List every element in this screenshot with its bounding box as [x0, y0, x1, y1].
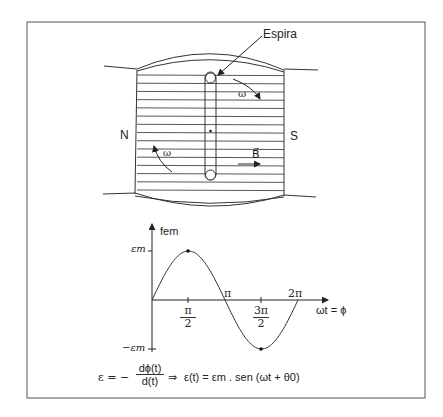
- formula-fraction: dϕ(t) d(t): [136, 362, 164, 387]
- y-min-label: −εm: [122, 342, 145, 353]
- south-pole-label: S: [290, 129, 298, 143]
- tick-2pi: 2π: [288, 287, 302, 300]
- loop-label: Espira: [263, 27, 297, 41]
- tick-3pi-over-2: 3π 2: [253, 305, 269, 330]
- y-max-label: εm: [131, 243, 146, 254]
- omega-label-top: ω: [238, 88, 246, 99]
- field-label: B⃗: [252, 148, 260, 161]
- loop-espira: [205, 72, 216, 180]
- y-axis-label: fem: [160, 225, 178, 237]
- north-pole-label: N: [120, 128, 129, 142]
- formula-rhs: ε(t) = εm . sen (ωt + θ0): [184, 371, 300, 383]
- formula-implies: ⇒: [168, 371, 177, 384]
- tick-pi-over-2: π 2: [180, 305, 196, 330]
- generator-diagram: [0, 0, 443, 417]
- omega-label-bottom: ω: [163, 147, 171, 158]
- tick-pi: π: [224, 287, 231, 300]
- rotation-axis-dot: [209, 130, 212, 133]
- figure-frame: [27, 22, 425, 398]
- max-point: [186, 249, 190, 253]
- formula-lhs: ε = −: [98, 371, 129, 384]
- espira-pointer-arrow: [218, 36, 262, 75]
- min-point: [259, 347, 263, 351]
- x-axis-label: ωt = ϕ: [316, 304, 346, 316]
